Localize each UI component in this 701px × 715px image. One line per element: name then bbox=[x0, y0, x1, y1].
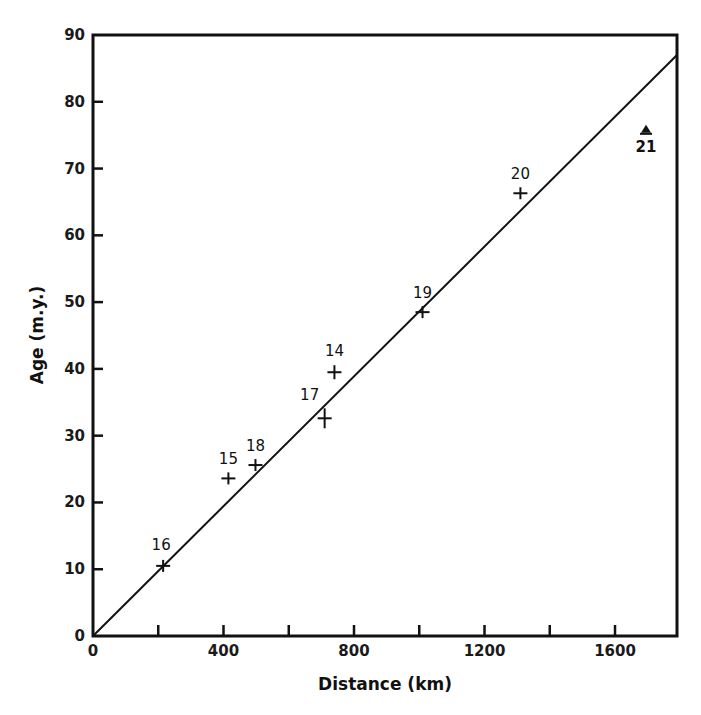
point-label: 19 bbox=[413, 284, 432, 302]
x-tick-label: 1600 bbox=[594, 642, 636, 660]
age-distance-chart: 0102030405060708090 040080012001600 1615… bbox=[0, 0, 701, 715]
y-tick-label: 60 bbox=[64, 226, 85, 244]
fit-line bbox=[93, 55, 677, 636]
regression-line bbox=[93, 55, 677, 636]
data-points: 1615181714192021 bbox=[152, 125, 657, 572]
y-tick-label: 90 bbox=[64, 26, 85, 44]
data-point-17: 17 bbox=[300, 386, 332, 428]
axes-box bbox=[93, 35, 677, 636]
x-tick-label: 0 bbox=[88, 642, 98, 660]
data-point-15: 15 bbox=[219, 450, 238, 484]
y-axis-ticks: 0102030405060708090 bbox=[64, 26, 103, 645]
x-tick-label: 1200 bbox=[464, 642, 506, 660]
point-label: 18 bbox=[246, 437, 265, 455]
plot-frame bbox=[93, 35, 677, 636]
point-label: 16 bbox=[152, 536, 171, 554]
data-point-16: 16 bbox=[152, 536, 171, 572]
data-point-20: 20 bbox=[511, 165, 530, 199]
x-tick-label: 400 bbox=[208, 642, 239, 660]
data-point-14: 14 bbox=[325, 342, 344, 379]
point-label: 21 bbox=[636, 138, 657, 156]
point-label: 14 bbox=[325, 342, 344, 360]
triangle-marker-icon bbox=[641, 125, 651, 133]
y-tick-label: 70 bbox=[64, 160, 85, 178]
y-tick-label: 40 bbox=[64, 360, 85, 378]
y-tick-label: 0 bbox=[75, 627, 85, 645]
data-point-19: 19 bbox=[413, 284, 432, 318]
y-tick-label: 20 bbox=[64, 493, 85, 511]
y-tick-label: 10 bbox=[64, 560, 85, 578]
x-tick-label: 800 bbox=[338, 642, 369, 660]
point-label: 20 bbox=[511, 165, 530, 183]
point-label: 17 bbox=[300, 386, 319, 404]
point-label: 15 bbox=[219, 450, 238, 468]
y-axis-title: Age (m.y.) bbox=[27, 286, 47, 384]
x-axis-ticks: 040080012001600 bbox=[88, 625, 636, 660]
data-point-18: 18 bbox=[246, 437, 265, 471]
x-axis-title: Distance (km) bbox=[318, 674, 452, 694]
y-tick-label: 80 bbox=[64, 93, 85, 111]
data-point-21: 21 bbox=[636, 125, 657, 156]
y-tick-label: 30 bbox=[64, 427, 85, 445]
y-tick-label: 50 bbox=[64, 293, 85, 311]
